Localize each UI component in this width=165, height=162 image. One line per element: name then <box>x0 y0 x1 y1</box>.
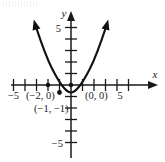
x-tick-label-pos5: 5 <box>117 90 122 101</box>
curve-left-arrow-icon <box>33 20 41 31</box>
scan-artifact <box>3 1 39 7</box>
annotation-vertex: (−1, −1) <box>34 103 69 115</box>
point-marker-origin <box>69 83 73 87</box>
x-axis-arrow-icon <box>148 81 158 89</box>
annotation-root-left: (−2, 0) <box>26 90 55 102</box>
curve-right-arrow-icon <box>102 20 110 31</box>
y-tick-label-pos5: 5 <box>56 23 61 34</box>
y-tick-label-neg5: −5 <box>52 138 63 149</box>
x-tick-label-neg5: −5 <box>8 90 19 101</box>
annotation-origin: (0, 0) <box>85 90 108 102</box>
x-axis-label: x <box>152 68 158 80</box>
parabola-figure: −5 5 5 −5 x y (−2, 0) (0, 0) (−1, −1) <box>0 0 165 162</box>
coordinate-plane-svg: −5 5 5 −5 x y (−2, 0) (0, 0) (−1, −1) <box>0 0 165 162</box>
y-axis-label: y <box>61 7 67 19</box>
point-marker-vertex <box>57 90 62 95</box>
y-axis-arrow-icon <box>67 11 75 21</box>
point-marker-root-left <box>46 83 50 87</box>
